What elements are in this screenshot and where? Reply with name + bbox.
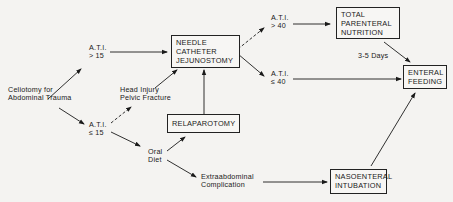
edge-needle-ati-le40 — [238, 54, 264, 76]
node-celiotomy: Celiotomy for Abdominal Trauma — [8, 86, 72, 103]
edge-oral-extra — [167, 160, 196, 177]
node-needle-catheter-jejunostomy: NEEDLE CATHETER JEJUNOSTOMY — [171, 35, 240, 68]
node-oral-diet: Oral Diet — [148, 148, 162, 165]
edge-oral-relap — [167, 137, 185, 151]
edge-ati-le15-head — [111, 107, 131, 123]
edge-start-ati-le15 — [59, 108, 84, 124]
node-total-parenteral-nutrition: TOTAL PARENTERAL NUTRITION — [336, 7, 400, 39]
edge-needle-ati-gt40 — [238, 28, 264, 49]
node-ati-gt40: A.T.I. > 40 — [271, 14, 289, 31]
node-relaparotomy: RELAPAROTOMY — [167, 114, 240, 133]
node-ati-le40: A.T.I. ≤ 40 — [271, 70, 289, 87]
node-extraabdominal: Extraabdominal Complication — [201, 173, 254, 190]
flowchart: Celiotomy for Abdominal Trauma A.T.I. > … — [0, 0, 453, 202]
edge-label-3-5-days: 3-5 Days — [358, 52, 388, 60]
node-ati-le15: A.T.I. ≤ 15 — [89, 121, 107, 138]
node-nasoenteral-intubation: NASOENTERAL INTUBATION — [330, 169, 387, 194]
node-enteral-feeding: ENTERAL FEEDING — [403, 65, 447, 89]
edge-ati-le15-oral — [111, 132, 140, 146]
node-ati-gt15: A.T.I. > 15 — [89, 44, 107, 61]
edge-naso-enteral — [371, 93, 415, 166]
node-head-injury: Head Injury Pelvic Fracture — [120, 86, 171, 103]
